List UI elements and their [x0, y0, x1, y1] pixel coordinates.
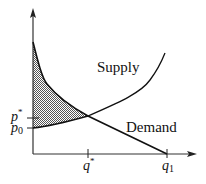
- q-star-label: q*: [83, 156, 95, 173]
- surplus-shaded-region: [33, 42, 88, 128]
- supply-demand-diagram: Supply Demand p* p0 q* q1: [0, 0, 206, 184]
- q1-label: q1: [162, 158, 174, 174]
- demand-label: Demand: [126, 119, 177, 135]
- supply-label: Supply: [97, 59, 140, 75]
- p0-label: p0: [10, 120, 23, 136]
